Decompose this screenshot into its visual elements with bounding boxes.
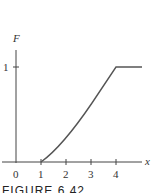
cdf-curve bbox=[41, 67, 142, 162]
x-tick-label-3: 3 bbox=[88, 168, 94, 180]
x-tick-label-1: 1 bbox=[38, 168, 44, 180]
y-tick-label-1: 1 bbox=[3, 61, 9, 73]
figure-caption: FIGURE 6.42 bbox=[2, 184, 85, 193]
x-tick-label-4: 4 bbox=[113, 168, 119, 180]
cdf-chart: F 1 x 0 1 2 3 4 bbox=[0, 0, 163, 193]
y-axis-label: F bbox=[12, 32, 20, 44]
x-tick-label-2: 2 bbox=[63, 168, 69, 180]
x-axis-label: x bbox=[144, 155, 150, 167]
x-tick-label-0: 0 bbox=[13, 168, 19, 180]
